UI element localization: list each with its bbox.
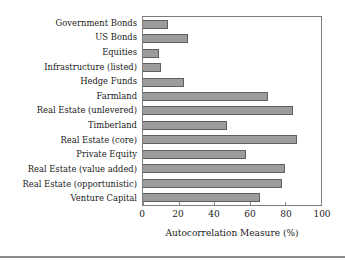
x-tick-label: 20 bbox=[172, 209, 183, 219]
x-tick-label: 40 bbox=[208, 209, 219, 219]
category-label: US Bonds bbox=[95, 33, 137, 42]
bar-row bbox=[143, 77, 321, 87]
category-label: Real Estate (opportunistic) bbox=[22, 180, 137, 189]
bar bbox=[143, 135, 297, 144]
category-axis-labels: Government Bonds US Bonds Equities Infra… bbox=[0, 16, 141, 206]
category-label: Timberland bbox=[88, 121, 137, 130]
x-tick-mark bbox=[143, 202, 144, 205]
bar bbox=[143, 20, 168, 29]
x-axis-title: Autocorrelation Measure (%) bbox=[142, 228, 322, 238]
plot-area bbox=[142, 16, 322, 206]
bar bbox=[143, 63, 161, 72]
category-label: Infrastructure (listed) bbox=[44, 63, 137, 72]
bar-row bbox=[143, 19, 321, 29]
bar bbox=[143, 34, 188, 43]
x-tick-label: 80 bbox=[280, 209, 291, 219]
x-axis-tick-labels: 020406080100 bbox=[142, 209, 322, 223]
chart-figure: Government Bonds US Bonds Equities Infra… bbox=[0, 0, 345, 260]
category-label: Government Bonds bbox=[56, 19, 137, 28]
x-tick-mark bbox=[285, 202, 286, 205]
bar-row bbox=[143, 48, 321, 58]
bar bbox=[143, 164, 285, 173]
bar-row bbox=[143, 178, 321, 188]
x-tick-mark bbox=[214, 202, 215, 205]
bar-row bbox=[143, 34, 321, 44]
bar bbox=[143, 193, 260, 202]
bar-row bbox=[143, 149, 321, 159]
category-label: Real Estate (unlevered) bbox=[37, 106, 137, 115]
bar bbox=[143, 179, 282, 188]
x-tick-label: 60 bbox=[244, 209, 255, 219]
bar-row bbox=[143, 106, 321, 116]
category-label: Private Equity bbox=[76, 150, 137, 159]
x-tick-mark bbox=[179, 202, 180, 205]
bar bbox=[143, 92, 268, 101]
x-tick-label: 0 bbox=[139, 209, 145, 219]
category-label: Venture Capital bbox=[71, 194, 138, 203]
bar bbox=[143, 106, 293, 115]
category-label: Farmland bbox=[96, 92, 137, 101]
bar bbox=[143, 49, 159, 58]
bar-row bbox=[143, 164, 321, 174]
category-label: Real Estate (core) bbox=[60, 136, 137, 145]
bar-series bbox=[143, 17, 321, 205]
bar bbox=[143, 121, 227, 130]
category-label: Hedge Funds bbox=[80, 77, 137, 86]
bar-row bbox=[143, 120, 321, 130]
x-tick-mark bbox=[321, 202, 322, 205]
bar-row bbox=[143, 91, 321, 101]
x-tick-label: 100 bbox=[313, 209, 330, 219]
bar bbox=[143, 150, 246, 159]
bar-row bbox=[143, 63, 321, 73]
category-label: Real Estate (value added) bbox=[28, 165, 137, 174]
bar bbox=[143, 78, 184, 87]
bar-row bbox=[143, 135, 321, 145]
bottom-divider bbox=[0, 256, 345, 258]
x-tick-mark bbox=[250, 202, 251, 205]
bar-row bbox=[143, 193, 321, 203]
category-label: Equities bbox=[102, 48, 137, 57]
